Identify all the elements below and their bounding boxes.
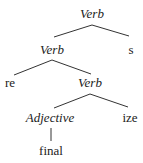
node-ize: ize bbox=[122, 111, 137, 124]
node-verb-root: Verb bbox=[80, 7, 104, 20]
tree-edges bbox=[0, 0, 143, 163]
node-final: final bbox=[39, 144, 63, 157]
node-re: re bbox=[5, 76, 15, 89]
morphology-tree-diagram: Verb Verb s re Verb Adjective ize final bbox=[0, 0, 143, 163]
node-s: s bbox=[128, 43, 133, 56]
node-verb-2: Verb bbox=[40, 43, 64, 56]
node-verb-3: Verb bbox=[78, 76, 102, 89]
node-adjective: Adjective bbox=[26, 111, 74, 124]
